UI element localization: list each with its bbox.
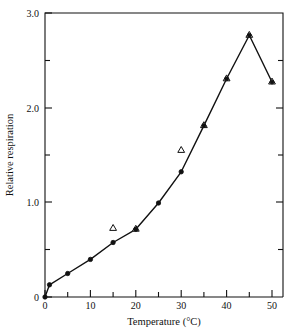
y-axis-title: Relative respiration [4,113,15,196]
marker-point-0 [43,295,47,299]
data-markers-filled-circle [43,33,274,299]
y-tick-label-0: 0 [34,292,39,303]
data-series-line [45,35,272,297]
x-axis-ticks [45,290,272,297]
right-axis-ticks [276,61,283,250]
y-tick-label-1: 1.0 [27,197,40,208]
x-tick-label-30: 30 [176,300,186,311]
y-tick-labels: 0 1.0 2.0 3.0 [27,8,40,303]
marker-point-45 [247,33,251,37]
x-tick-label-0: 0 [43,300,48,311]
marker-point-30 [179,170,183,174]
y-tick-label-3: 3.0 [27,8,40,19]
y-tick-label-2: 2.0 [27,103,40,114]
marker-point-20 [134,227,138,231]
marker-open-triangle-30 [178,147,185,153]
x-tick-label-50: 50 [267,300,277,311]
chart-figure: 0 1.0 2.0 3.0 0 10 20 30 40 50 Temperatu… [0,0,297,332]
y-axis-ticks [45,13,52,297]
marker-point-5 [66,271,70,275]
marker-point-40 [225,77,229,81]
data-markers-open-triangle [110,31,276,231]
relative-respiration-line-chart: 0 1.0 2.0 3.0 0 10 20 30 40 50 Temperatu… [0,0,297,332]
marker-point-50 [270,80,274,84]
marker-point-35 [202,124,206,128]
marker-point-2 [47,283,51,287]
x-axis-title: Temperature (°C) [127,316,201,328]
x-tick-labels: 0 10 20 30 40 50 [43,300,278,311]
marker-point-15 [111,240,115,244]
x-tick-label-10: 10 [85,300,95,311]
x-tick-label-40: 40 [222,300,232,311]
marker-point-10 [88,257,92,261]
plot-frame [45,13,283,297]
marker-open-triangle-15 [110,225,117,231]
x-tick-label-20: 20 [131,300,141,311]
marker-point-25 [156,201,160,205]
